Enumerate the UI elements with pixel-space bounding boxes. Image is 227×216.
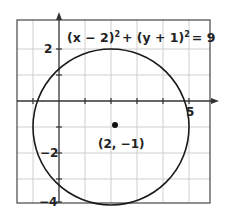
center-label: (2, −1) [98, 137, 144, 151]
equation-label: (x − 2)2+ (y + 1)2= 9 [67, 30, 215, 45]
x-tick-label-5: 5 [186, 105, 194, 119]
y-axis-arrow-icon [56, 12, 62, 20]
circle-graph: (2, −1) 2 −2 −4 5 (x − 2)2+ (y + 1)2= 9 [0, 0, 227, 216]
x-axis-arrow-icon [211, 98, 219, 104]
center-point [112, 122, 118, 128]
y-tick-label-neg4: −4 [39, 195, 57, 209]
y-tick-label-2: 2 [44, 42, 52, 56]
y-tick-label-neg2: −2 [40, 146, 58, 160]
